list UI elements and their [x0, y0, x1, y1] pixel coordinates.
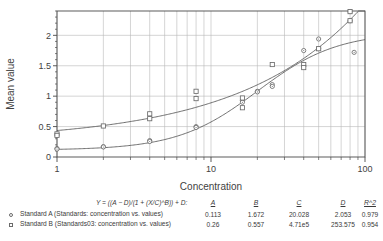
svg-text:10: 10	[206, 164, 216, 174]
circle-marker-icon	[9, 213, 13, 217]
svg-text:2: 2	[46, 31, 51, 41]
svg-text:0: 0	[46, 152, 51, 162]
svg-text:1: 1	[46, 91, 51, 101]
legend-label-standard-a: Standard A (Standards: concentration vs.…	[20, 211, 163, 218]
svg-text:100: 100	[357, 164, 372, 174]
legend-label-standard-b: Standard B (Standards03: concentration v…	[20, 221, 171, 228]
column-header-d: D	[327, 200, 359, 207]
value-r2-standard-b: 0.954	[357, 222, 383, 229]
value-b-standard-b: 0.557	[243, 222, 269, 229]
column-header-a: A	[200, 200, 226, 207]
value-b-standard-a: 1.672	[243, 212, 269, 219]
value-d-standard-a: 2.053	[327, 212, 359, 219]
value-r2-standard-a: 0.979	[357, 212, 383, 219]
column-header-c: C	[283, 200, 315, 207]
fit-equation: Y = ((A − D)/(1 + (X/C)^B)) + D:	[96, 200, 187, 207]
value-a-standard-a: 0.113	[200, 212, 226, 219]
value-d-standard-b: 253.575	[327, 222, 359, 229]
svg-text:1: 1	[54, 164, 59, 174]
legend-row-standard-b: Standard B (Standards03: concentration v…	[0, 220, 383, 231]
value-c-standard-b: 4.71e5	[283, 222, 315, 229]
column-header-r2: R^2	[357, 200, 383, 207]
equation-row: Y = ((A − D)/(1 + (X/C)^B)) + D: A B C D…	[0, 198, 383, 209]
svg-text:Concentration: Concentration	[180, 181, 242, 192]
value-c-standard-a: 20.028	[283, 212, 315, 219]
svg-text:1.5: 1.5	[38, 61, 51, 71]
square-marker-icon	[9, 223, 13, 227]
chart-plot-area: 00.511.52110100ConcentrationMean value	[0, 0, 383, 198]
column-header-b: B	[243, 200, 269, 207]
chart-legend-footer: Y = ((A − D)/(1 + (X/C)^B)) + D: A B C D…	[0, 198, 383, 241]
svg-text:Mean value: Mean value	[5, 58, 16, 110]
value-a-standard-b: 0.26	[200, 222, 226, 229]
svg-text:0.5: 0.5	[38, 122, 51, 132]
